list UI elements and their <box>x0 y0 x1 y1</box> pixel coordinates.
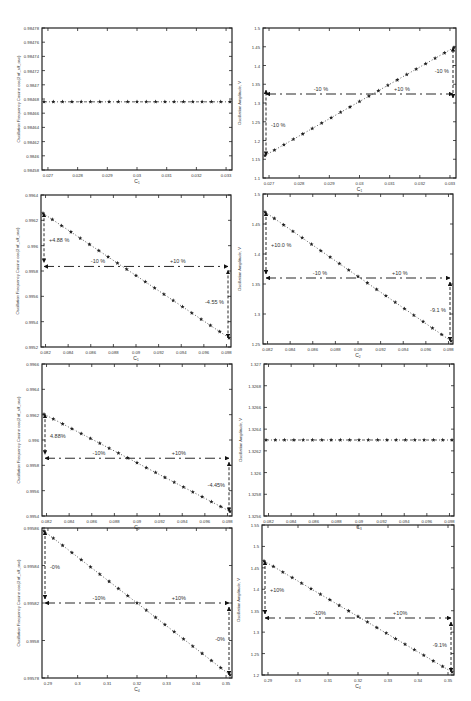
x-tick-label: 0.3 <box>75 681 81 686</box>
data-point-star-icon <box>291 229 295 233</box>
x-tick-label: 0.084 <box>285 347 296 352</box>
data-point-star-icon <box>394 438 398 442</box>
x-tick-label: 0.082 <box>41 519 52 524</box>
y-axis-label: Oscillation Frequency Cosine cos(2πf_s/f… <box>15 227 20 315</box>
data-point-star-icon <box>79 431 83 435</box>
x-tick-label: 0.086 <box>86 350 97 355</box>
x-axis-label: C₁ <box>134 178 140 184</box>
data-point-star-icon <box>171 298 175 302</box>
y-tick-label: 1.25 <box>251 652 260 657</box>
y-tick-label: 1.35 <box>252 282 261 287</box>
annotation-plus10: +10 % <box>170 258 186 264</box>
data-point-star-icon <box>301 132 305 136</box>
data-point-star-icon <box>98 441 102 445</box>
x-axis-label: C₂ <box>355 352 361 358</box>
data-point-star-icon <box>61 422 65 426</box>
data-point-star-icon <box>403 438 407 442</box>
y-tick-label: 0.9958 <box>26 463 39 468</box>
x-tick-label: 0.082 <box>40 350 51 355</box>
data-point-star-icon <box>290 575 294 579</box>
data-point-star-icon <box>300 236 304 240</box>
x-tick-label: 0.094 <box>176 350 187 355</box>
x-axis-label: C₄ <box>134 686 140 692</box>
x-tick-label: 0.092 <box>153 350 164 355</box>
data-point-star-icon <box>219 504 223 508</box>
data-point-star-icon <box>430 326 434 330</box>
plot-area <box>262 525 454 675</box>
x-tick-label: 0.088 <box>331 519 342 524</box>
data-point-star-icon <box>421 319 425 323</box>
chart-panel-5: 0.99660.99640.99620.9960.99580.99560.995… <box>16 362 233 530</box>
y-tick-label: 1.55 <box>251 523 260 528</box>
x-tick-label: 0.088 <box>330 347 341 352</box>
data-point-star-icon <box>282 143 286 147</box>
y-tick-label: 0.9954 <box>25 320 38 325</box>
y-tick-label: 0.98478 <box>24 26 40 31</box>
y-tick-label: 1.3 <box>254 312 260 317</box>
x-tick-label: 0.33 <box>384 678 393 683</box>
x-tick-label: 0.096 <box>421 347 432 352</box>
data-point-star-icon <box>356 274 360 278</box>
data-point-star-icon <box>143 280 147 284</box>
x-tick-label: 0.082 <box>262 347 273 352</box>
data-point-star-icon <box>180 305 184 309</box>
y-tick-label: 0.9964 <box>26 387 39 392</box>
data-point-star-icon <box>51 100 55 104</box>
data-point-star-icon <box>153 286 157 290</box>
y-tick-label: 0.996 <box>28 244 39 249</box>
x-tick-label: 0.028 <box>294 181 305 186</box>
y-tick-label: 0.98464 <box>24 125 40 130</box>
y-tick-label: 1.3268 <box>248 384 261 389</box>
y-tick-label: 1.35 <box>251 609 260 614</box>
data-point-star-icon <box>50 217 54 221</box>
x-tick-label: 0.098 <box>444 519 455 524</box>
data-point-star-icon <box>405 72 409 76</box>
x-tick-label: 0.033 <box>221 173 232 178</box>
annotation-minus10: -10% <box>93 595 106 601</box>
annotation-right: -4.45% <box>208 482 226 488</box>
y-tick-label: 1.15 <box>252 157 261 162</box>
x-tick-label: 0.032 <box>191 173 202 178</box>
x-tick-label: 0.098 <box>222 519 233 524</box>
x-tick-label: 0.31 <box>324 678 333 683</box>
data-point-star-icon <box>107 100 111 104</box>
data-point-star-icon <box>338 438 342 442</box>
y-axis-label: Oscillation Frequency Cosine cos(2πf_s/f… <box>16 396 21 484</box>
data-point-star-icon <box>218 329 222 333</box>
data-point-star-icon <box>172 100 176 104</box>
x-tick-label: 0.032 <box>415 181 426 186</box>
y-tick-label: 1.327 <box>251 362 262 367</box>
data-point-star-icon <box>172 480 176 484</box>
y-tick-label: 0.9847 <box>26 83 39 88</box>
plot-area <box>42 28 232 170</box>
x-tick-label: 0.35 <box>444 678 453 683</box>
data-point-star-icon <box>115 261 119 265</box>
y-tick-label: 1.3256 <box>248 514 261 519</box>
x-tick-label: 0.088 <box>109 519 120 524</box>
x-tick-label: 0.34 <box>414 678 423 683</box>
x-tick-label: 0.34 <box>192 681 201 686</box>
data-point-star-icon <box>208 323 212 327</box>
data-point-star-icon <box>98 100 102 104</box>
data-point-star-icon <box>384 294 388 298</box>
plot-area <box>42 364 232 516</box>
y-axis-label: Oscillation Frequency Cosine cos(2πf_s/f… <box>16 559 21 647</box>
x-tick-label: 0.31 <box>103 681 112 686</box>
y-tick-label: 0.9956 <box>26 489 39 494</box>
figure-grid: 0.984780.984760.984740.984720.98470.9846… <box>0 0 471 701</box>
data-point-star-icon <box>422 438 426 442</box>
data-point-star-icon <box>375 287 379 291</box>
annotation-left: +10.0 % <box>271 242 291 248</box>
y-tick-label: 0.9962 <box>26 413 39 418</box>
annotation-plus10: +10% <box>172 595 186 601</box>
data-point-star-icon <box>292 438 296 442</box>
x-tick-label: 0.096 <box>200 519 211 524</box>
y-tick-label: 1.2 <box>254 139 260 144</box>
y-tick-label: 0.9954 <box>26 514 39 519</box>
y-tick-label: 1.3262 <box>248 449 261 454</box>
chart-panel-1: 0.984780.984760.984740.984720.98470.9846… <box>16 26 232 184</box>
y-axis-label: Oscillation Amplitude, V <box>236 578 241 622</box>
data-point-star-icon <box>320 438 324 442</box>
x-tick-label: 0.029 <box>324 181 335 186</box>
x-axis-label: C₁ <box>357 186 363 192</box>
